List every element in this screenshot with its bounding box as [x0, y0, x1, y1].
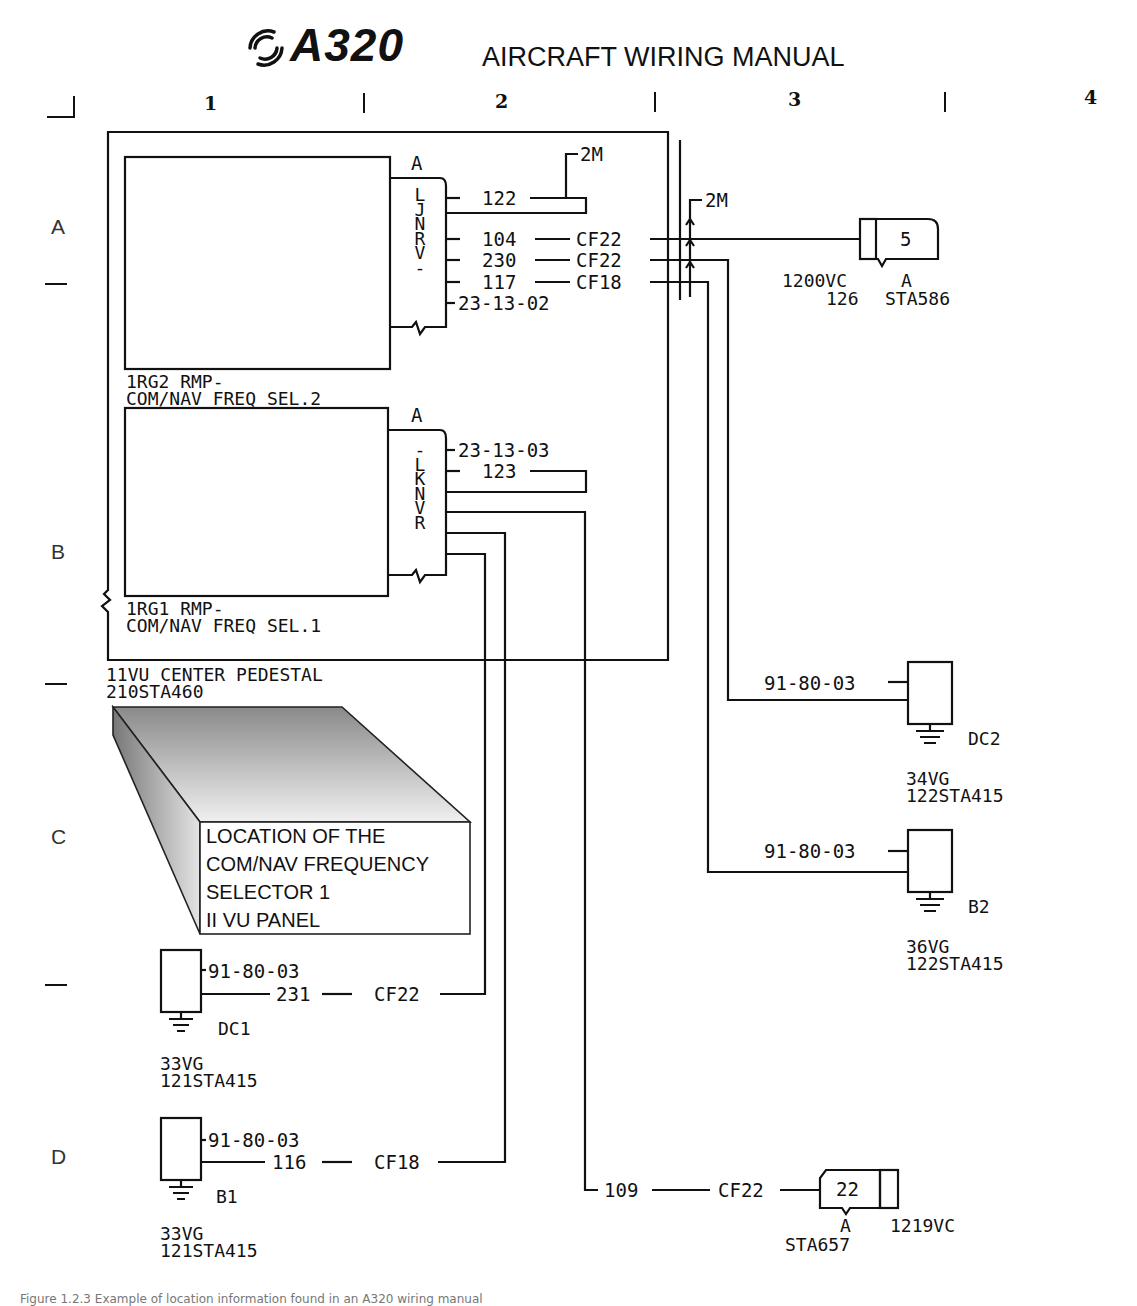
wire-number: 117	[482, 273, 516, 291]
wire-gauge: CF18	[576, 273, 622, 291]
ground-name: DC1	[218, 1020, 251, 1037]
connector-station: STA657	[785, 1236, 850, 1253]
connector-station: STA586	[885, 290, 950, 307]
wire-number: 104	[482, 230, 516, 248]
connector-pin: 22	[836, 1180, 859, 1198]
wire-number: 122	[482, 189, 516, 207]
location-note: LOCATION OF THE COM/NAV FREQUENCY SELECT…	[206, 822, 429, 934]
reference-code: 91-80-03	[764, 674, 856, 692]
ground-name: B1	[216, 1188, 238, 1205]
connector-id: 1200VC	[782, 272, 847, 289]
rmp1-pin-list: - L K N V R	[410, 443, 430, 531]
ground-name: DC2	[968, 730, 1001, 747]
ground-location: 33VG 121STA415	[160, 1225, 258, 1259]
ground-location: 34VG 122STA415	[906, 770, 1004, 804]
reference-code: 91-80-03	[208, 962, 300, 980]
connector-letter: A	[840, 1217, 851, 1234]
wire-gauge: CF18	[374, 1153, 420, 1171]
reference-code: 91-80-03	[764, 842, 856, 860]
rmp2-connector-label: A	[411, 154, 422, 172]
ground-location: 33VG 121STA415	[160, 1055, 258, 1089]
panel-label: 11VU CENTER PEDESTAL 210STA460	[106, 666, 323, 700]
wire-gauge: CF22	[718, 1181, 764, 1199]
rmp1-connector-label: A	[411, 406, 422, 424]
pin-label: -	[410, 261, 430, 276]
connector-pin: 5	[900, 230, 911, 248]
rmp2-box	[125, 157, 390, 369]
wire-gauge: CF22	[374, 985, 420, 1003]
figure-caption: Figure 1.2.3 Example of location informa…	[20, 1292, 483, 1306]
reference-code: 23-13-02	[458, 294, 550, 312]
connector-letter: A	[901, 272, 912, 289]
rmp2-label: 1RG2 RMP- COM/NAV FREQ SEL.2	[126, 373, 321, 407]
reference-code: 23-13-03	[458, 441, 550, 459]
ground-location: 36VG 122STA415	[906, 938, 1004, 972]
rmp2-pin-list: L J N R V -	[410, 188, 430, 276]
wire-number: 109	[604, 1181, 638, 1199]
ground-name: B2	[968, 898, 990, 915]
reference-code: 91-80-03	[208, 1131, 300, 1149]
wire-gauge: CF22	[576, 251, 622, 269]
connector-zone: 126	[826, 290, 859, 307]
rmp1-box	[125, 408, 388, 596]
wire-gauge: CF22	[576, 230, 622, 248]
shield-label: 2M	[705, 191, 728, 209]
pin-label: R	[410, 516, 430, 531]
shield-label: 2M	[580, 145, 603, 163]
wire-number: 116	[272, 1153, 306, 1171]
connector-id: 1219VC	[890, 1217, 955, 1234]
rmp1-label: 1RG1 RMP- COM/NAV FREQ SEL.1	[126, 600, 321, 634]
wire-number: 231	[276, 985, 310, 1003]
wire-number: 123	[482, 462, 516, 480]
wire-number: 230	[482, 251, 516, 269]
